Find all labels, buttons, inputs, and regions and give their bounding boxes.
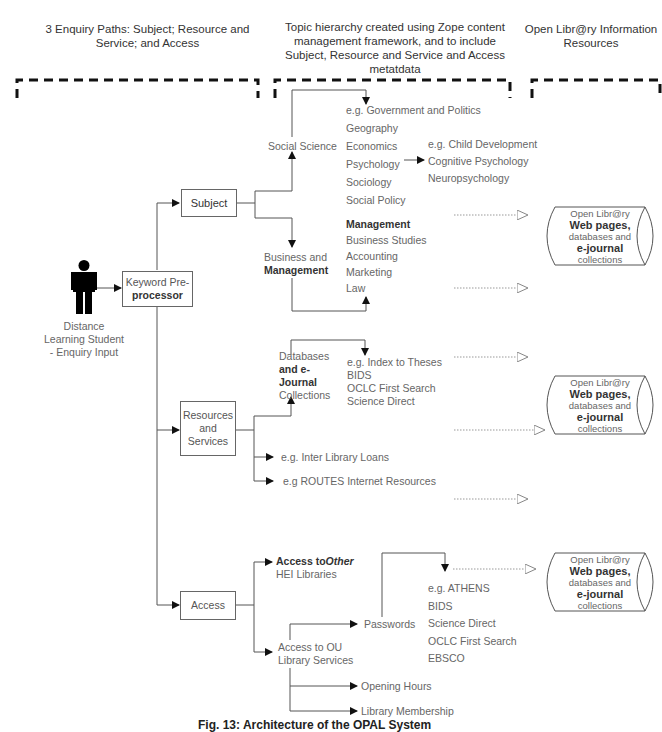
databases-list: e.g. Index to Theses BIDS OCLC First Sea… <box>347 356 442 408</box>
library-membership: Library Membership <box>361 705 454 718</box>
access-other-line2: HEI Libraries <box>276 568 354 581</box>
cylinder-line: Open Libr@ry <box>555 554 645 566</box>
topic-item: e.g. Government and Politics <box>346 104 481 122</box>
business-label-line2: Management <box>264 264 328 277</box>
psychology-sublist: e.g. Child Development Cognitive Psychol… <box>428 138 537 189</box>
topic-item: Law <box>346 282 427 298</box>
databases-label-line: Journal <box>279 376 330 389</box>
topic-item: Social Policy <box>346 194 481 212</box>
keyword-box-line2: processor <box>132 289 183 302</box>
resource-cylinder-3: Open Libr@ry Web pages, databases and e-… <box>555 554 645 612</box>
cylinder-line: collections <box>555 254 645 266</box>
database-item: BIDS <box>347 369 442 382</box>
database-item: Science Direct <box>347 395 442 408</box>
password-item: OCLC First Search <box>428 635 517 653</box>
psychology-item: Neuropsychology <box>428 172 537 189</box>
cylinder-line: databases and <box>555 231 645 243</box>
cylinder-line: collections <box>555 423 645 435</box>
access-other-hei: Access toOther HEI Libraries <box>276 555 354 581</box>
cylinder-line: e-journal <box>555 589 645 601</box>
topic-item: Accounting <box>346 250 427 266</box>
topic-item: Management <box>346 218 427 234</box>
password-item: EBSCO <box>428 652 517 670</box>
resources-box-line: Resources <box>183 409 233 422</box>
opening-hours: Opening Hours <box>361 680 432 693</box>
cylinder-line: Web pages, <box>555 220 645 232</box>
access-other-bold: Access to <box>276 555 326 567</box>
person-icon <box>70 260 98 315</box>
password-item: Science Direct <box>428 617 517 635</box>
psychology-item: Cognitive Psychology <box>428 155 537 172</box>
routes-internet-resources: e.g ROUTES Internet Resources <box>283 475 436 488</box>
social-science-label: Social Science <box>268 140 337 153</box>
passwords-label: Passwords <box>364 618 415 631</box>
business-list: Management Business Studies Accounting M… <box>346 218 427 298</box>
topic-item: Business Studies <box>346 234 427 250</box>
databases-label-line: and e- <box>279 363 330 376</box>
password-items-list: e.g. ATHENS BIDS Science Direct OCLC Fir… <box>428 582 517 670</box>
password-item: BIDS <box>428 600 517 618</box>
subject-box[interactable]: Subject <box>181 189 237 217</box>
figure-caption: Fig. 13: Architecture of the OPAL System <box>198 718 431 732</box>
student-label: Distance Learning Student - Enquiry Inpu… <box>38 320 130 359</box>
access-ou-line1: Access to OU <box>278 641 353 654</box>
keyword-box-line1: Keyword Pre- <box>126 276 190 289</box>
business-label: Business and Management <box>264 251 328 277</box>
resources-box-line: and <box>199 422 217 435</box>
resources-services-box[interactable]: Resources and Services <box>180 401 236 456</box>
psychology-item: e.g. Child Development <box>428 138 537 155</box>
student-label-line: Learning Student <box>38 333 130 346</box>
access-ou-line2: Library Services <box>278 654 353 667</box>
topic-item: Marketing <box>346 266 427 282</box>
access-other-italic: Other <box>326 555 354 567</box>
resources-box-line: Services <box>188 435 228 448</box>
business-label-line1: Business and <box>264 251 328 264</box>
databases-label-line: Collections <box>279 389 330 402</box>
cylinder-line: databases and <box>555 400 645 412</box>
password-item: e.g. ATHENS <box>428 582 517 600</box>
resource-cylinder-2: Open Libr@ry Web pages, databases and e-… <box>555 377 645 435</box>
cylinder-line: Open Libr@ry <box>555 208 645 220</box>
database-item: OCLC First Search <box>347 382 442 395</box>
cylinder-line: e-journal <box>555 412 645 424</box>
cylinder-line: e-journal <box>555 243 645 255</box>
cylinder-line: databases and <box>555 577 645 589</box>
cylinder-line: Web pages, <box>555 389 645 401</box>
cylinder-line: Web pages, <box>555 566 645 578</box>
access-box[interactable]: Access <box>180 591 236 620</box>
resource-cylinder-1: Open Libr@ry Web pages, databases and e-… <box>555 208 645 266</box>
student-label-line: - Enquiry Input <box>38 346 130 359</box>
inter-library-loans: e.g. Inter Library Loans <box>281 451 389 464</box>
keyword-preprocessor-box[interactable]: Keyword Pre- processor <box>122 271 193 307</box>
access-ou-services: Access to OU Library Services <box>278 641 353 667</box>
databases-label: Databases and e- Journal Collections <box>279 350 330 402</box>
database-item: e.g. Index to Theses <box>347 356 442 369</box>
databases-label-line: Databases <box>279 350 330 363</box>
cylinder-line: Open Libr@ry <box>555 377 645 389</box>
student-label-line: Distance <box>38 320 130 333</box>
cylinder-line: collections <box>555 600 645 612</box>
